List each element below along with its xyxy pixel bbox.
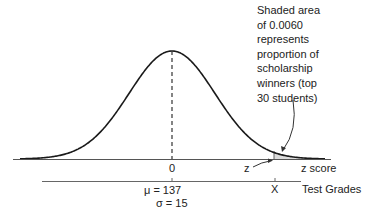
mean-label: μ = 137 bbox=[144, 184, 181, 197]
annotation-line: winners (top bbox=[257, 76, 320, 91]
annotation-line: proportion of bbox=[257, 47, 320, 62]
z-arrow bbox=[253, 161, 270, 167]
test-grades-axis-label: Test Grades bbox=[302, 183, 361, 196]
z-cutoff-label: z bbox=[244, 162, 250, 175]
annotation-line: Shaded area bbox=[257, 3, 320, 18]
annotation-text: Shaded area of 0.0060 represents proport… bbox=[257, 3, 320, 105]
x-cutoff-label: X bbox=[271, 183, 278, 196]
z-center-label: 0 bbox=[169, 162, 175, 175]
annotation-line: 30 students) bbox=[257, 91, 320, 106]
annotation-line: represents bbox=[257, 32, 320, 47]
annotation-arrow bbox=[283, 100, 294, 150]
sd-label: σ = 15 bbox=[156, 197, 188, 210]
z-score-axis-label: z score bbox=[301, 162, 336, 175]
annotation-line: scholarship bbox=[257, 61, 320, 76]
annotation-line: of 0.0060 bbox=[257, 18, 320, 33]
